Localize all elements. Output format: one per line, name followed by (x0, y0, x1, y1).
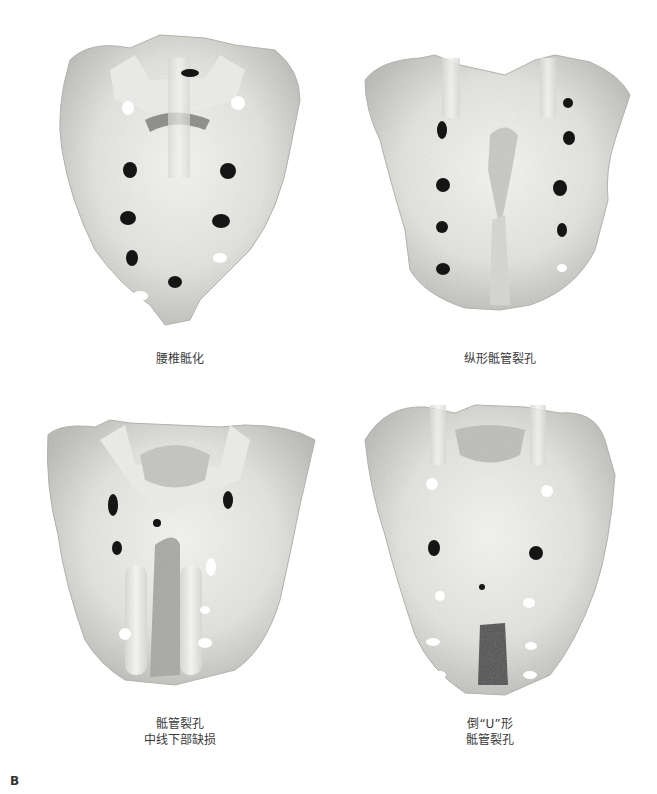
caption-line: 骶管裂孔 (415, 732, 565, 748)
panel-inverted-u-sacral-hiatus: 倒“U”形 骶管裂孔 (330, 395, 657, 765)
figure-label: B (10, 774, 19, 788)
sacrum-image (330, 395, 657, 705)
sacrum-image (0, 0, 330, 340)
sacrum-image (330, 0, 657, 340)
caption-line: 倒“U”形 (415, 716, 565, 732)
caption: 骶管裂孔 中线下部缺损 (95, 716, 265, 748)
caption-line: 中线下部缺损 (95, 732, 265, 748)
caption-line: 骶管裂孔 (95, 716, 265, 732)
panel-longitudinal-sacral-hiatus: 纵形骶管裂孔 (330, 0, 657, 380)
sacrum-image (0, 395, 330, 695)
panel-lumbar-sacralization: 腰椎骶化 (0, 0, 330, 380)
panel-hiatus-midline-defect: 骶管裂孔 中线下部缺损 (0, 395, 330, 765)
caption: 纵形骶管裂孔 (425, 351, 575, 367)
caption-line: 腰椎骶化 (115, 351, 245, 367)
caption-line: 纵形骶管裂孔 (425, 351, 575, 367)
caption: 倒“U”形 骶管裂孔 (415, 716, 565, 748)
caption: 腰椎骶化 (115, 351, 245, 367)
